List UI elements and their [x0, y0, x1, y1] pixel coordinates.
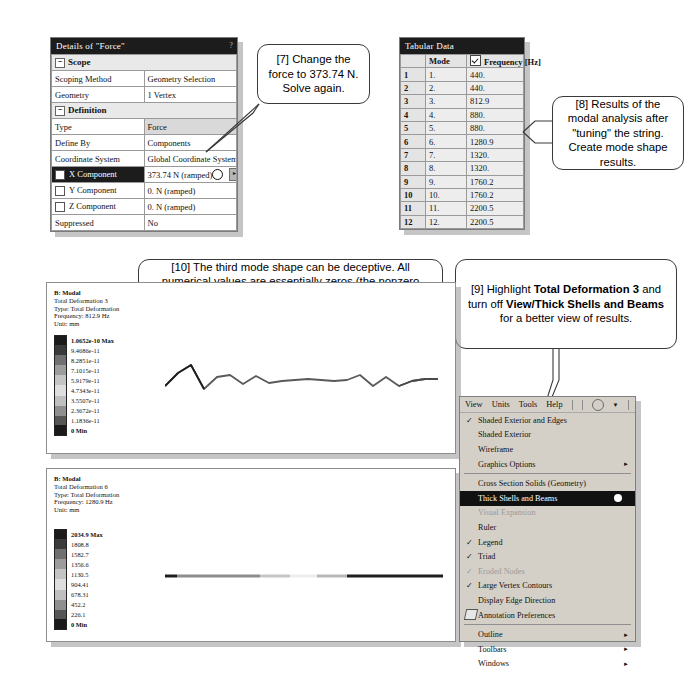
- details-row-value-cell[interactable]: Geometry Selection: [144, 71, 237, 87]
- result3-info-1: Total Deformation 3: [54, 297, 119, 305]
- menu-help[interactable]: Help: [546, 400, 562, 409]
- table-row[interactable]: 1111.2200.5: [401, 202, 524, 215]
- table-row[interactable]: 22.440.: [401, 81, 524, 94]
- legend-swatch: [54, 365, 67, 375]
- details-row-label: Geometry: [55, 90, 89, 100]
- row-index: 4: [401, 108, 426, 121]
- details-row-value-cell[interactable]: Components: [144, 135, 237, 151]
- row-index: 10: [401, 188, 426, 201]
- component-checkbox[interactable]: [55, 186, 65, 196]
- menu-item-triad[interactable]: ✓Triad: [460, 549, 635, 564]
- table-row[interactable]: 1212.2200.5: [401, 215, 524, 228]
- menu-item-thick-shells-and-beams[interactable]: Thick Shells and Beams: [460, 491, 635, 506]
- details-row-value-cell[interactable]: 373.74 N (ramped)▸: [144, 167, 237, 183]
- menu-view[interactable]: View: [465, 400, 483, 409]
- table-row[interactable]: 66.1280.9: [401, 135, 524, 148]
- legend-swatch: [54, 385, 67, 395]
- menu-item-windows[interactable]: Windows►: [460, 657, 635, 672]
- row-mode: 4.: [426, 108, 467, 121]
- menu-item-display-edge-direction[interactable]: Display Edge Direction: [460, 593, 635, 608]
- row-mode: 1.: [426, 68, 467, 81]
- menu-item-label: Windows: [478, 659, 509, 668]
- menu-item-toolbars[interactable]: Toolbars►: [460, 642, 635, 657]
- legend-swatch: [54, 619, 67, 630]
- row-index: 7: [401, 148, 426, 161]
- details-row-value: 1 Vertex: [148, 90, 176, 100]
- details-row[interactable]: Scoping MethodGeometry Selection: [52, 71, 237, 87]
- row-frequency: 1320.: [467, 162, 524, 175]
- details-row-value-cell[interactable]: 1 Vertex: [144, 87, 237, 103]
- table-row[interactable]: 11.440.: [401, 68, 524, 81]
- toolbar-ring-icon[interactable]: [592, 399, 604, 411]
- menu-item-ruler[interactable]: Ruler: [460, 520, 635, 535]
- menu-item-graphics-options[interactable]: Graphics Options►: [460, 457, 635, 472]
- legend-label: 226.1: [71, 611, 85, 618]
- menu-item-shaded-exterior[interactable]: Shaded Exterior: [460, 428, 635, 443]
- legend-label: 1582.7: [71, 551, 89, 558]
- callout-9-part1: [9] Highlight: [471, 283, 534, 295]
- details-row-value-cell[interactable]: No: [144, 215, 237, 231]
- chevron-down-icon[interactable]: ▼: [613, 402, 619, 408]
- result3-info-2: Type: Total Deformation: [54, 305, 119, 313]
- details-row-label: Y Component: [69, 185, 117, 195]
- legend-label: 2034.9 Max: [71, 531, 103, 538]
- row-frequency: 1760.2: [467, 175, 524, 188]
- legend-row: 452.2: [54, 600, 103, 610]
- tabular-col-frequency[interactable]: Frequency [Hz]: [467, 55, 524, 68]
- table-row[interactable]: 1010.1760.2: [401, 188, 524, 201]
- details-row[interactable]: Z Component0. N (ramped): [52, 199, 237, 215]
- table-row[interactable]: 88.1320.: [401, 162, 524, 175]
- row-mode: 10.: [426, 188, 467, 201]
- menu-item-annotation-preferences[interactable]: Annotation Preferences: [460, 608, 635, 623]
- table-row[interactable]: 99.1760.2: [401, 175, 524, 188]
- legend-label: 0 Min: [71, 427, 87, 434]
- details-row[interactable]: Coordinate SystemGlobal Coordinate Syste…: [52, 151, 237, 167]
- menu-units[interactable]: Units: [492, 400, 510, 409]
- menu-tools[interactable]: Tools: [519, 400, 538, 409]
- details-row-value-cell[interactable]: Force: [144, 119, 237, 135]
- details-row[interactable]: SuppressedNo: [52, 215, 237, 231]
- menu-item-legend[interactable]: ✓Legend: [460, 535, 635, 550]
- result3-legend: 1.0652e-10 Max9.4686e-118.2851e-117.1015…: [54, 335, 114, 436]
- menu-item-visual-expansion[interactable]: Visual Expansion: [460, 506, 635, 521]
- frequency-column-checkbox[interactable]: [470, 55, 481, 66]
- details-row[interactable]: TypeForce: [52, 119, 237, 135]
- component-checkbox[interactable]: [55, 202, 65, 212]
- details-section-row[interactable]: −Scope: [52, 55, 237, 71]
- details-row-value: 0. N (ramped): [148, 202, 196, 212]
- row-mode: 11.: [426, 202, 467, 215]
- legend-row: 8.2851e-11: [54, 355, 114, 365]
- details-row-value-cell[interactable]: Global Coordinate System: [144, 151, 237, 167]
- menu-item-shaded-exterior-and-edges[interactable]: ✓Shaded Exterior and Edges: [460, 413, 635, 428]
- menu-item-outline[interactable]: Outline►: [460, 627, 635, 642]
- legend-label: 1130.5: [71, 571, 88, 578]
- legend-swatch: [54, 539, 67, 549]
- menu-item-cross-section-solids-geometry[interactable]: Cross Section Solids (Geometry): [460, 476, 635, 491]
- details-row[interactable]: X Component373.74 N (ramped)▸: [52, 167, 237, 183]
- collapse-icon[interactable]: −: [55, 58, 65, 68]
- value-dropdown-button[interactable]: ▸: [229, 168, 236, 181]
- help-icon[interactable]: ?: [229, 40, 233, 52]
- collapse-icon[interactable]: −: [55, 106, 65, 116]
- table-row[interactable]: 55.880.: [401, 121, 524, 134]
- menu-item-label: Wireframe: [478, 445, 513, 454]
- row-mode: 3.: [426, 95, 467, 108]
- menu-item-large-vertex-contours[interactable]: ✓Large Vertex Contours: [460, 579, 635, 594]
- menu-item-eroded-nodes[interactable]: ✓Eroded Nodes: [460, 564, 635, 579]
- callout-7: [7] Change the force to 373.74 N. Solve …: [257, 44, 370, 104]
- legend-label: 1.0652e-10 Max: [71, 337, 114, 344]
- details-section-row[interactable]: −Definition: [52, 103, 237, 119]
- menu-item-wireframe[interactable]: Wireframe: [460, 442, 635, 457]
- details-row[interactable]: Define ByComponents: [52, 135, 237, 151]
- legend-label: 0 Min: [71, 621, 87, 628]
- details-row[interactable]: Y Component0. N (ramped): [52, 183, 237, 199]
- details-row-value-cell[interactable]: 0. N (ramped): [144, 183, 237, 199]
- table-row[interactable]: 44.880.: [401, 108, 524, 121]
- details-row[interactable]: Geometry1 Vertex: [52, 87, 237, 103]
- table-row[interactable]: 77.1320.: [401, 148, 524, 161]
- value-editor[interactable]: 373.74 N (ramped)▸: [148, 168, 234, 181]
- table-row[interactable]: 33.812.9: [401, 95, 524, 108]
- details-row-value-cell[interactable]: 0. N (ramped): [144, 199, 237, 215]
- component-checkbox[interactable]: [55, 170, 65, 180]
- row-frequency: 1320.: [467, 148, 524, 161]
